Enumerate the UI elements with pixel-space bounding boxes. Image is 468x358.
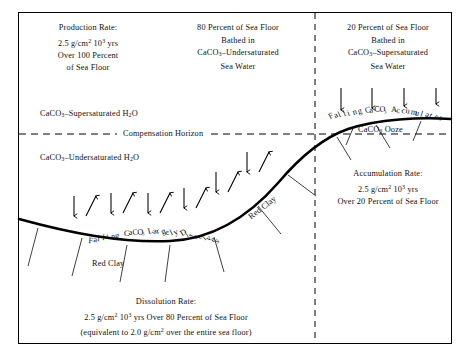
- curved-glyph: l: [102, 233, 105, 242]
- caco3-ooze-label: CaCO3 Ooze: [358, 124, 403, 138]
- accumulation-coverage: Over 20 Percent of Sea Floor: [337, 196, 438, 209]
- production-rate-value: 2.5 g/cm2 103 yrs: [58, 35, 118, 50]
- dissolution-rate-title: Dissolution Rate:: [80, 296, 251, 309]
- right-bathed-in: Bathed in: [347, 35, 429, 48]
- right-sea-floor-percent: 20 Percent of Sea Floor: [347, 22, 429, 35]
- compensation-horizon-label: Compensation Horizon: [117, 128, 209, 140]
- supersaturated-water-label: CaCO3–Supersaturated H2O: [40, 108, 138, 122]
- dissolution-rate-value: 2.5 g/cm2 103 yrs Over 80 Percent of Sea…: [80, 309, 251, 324]
- center-sea-floor-percent: 80 Percent of Sea Floor: [197, 22, 279, 35]
- dissolution-equivalent: (equivalent to 2.0 g/cm2 over the entire…: [80, 324, 251, 339]
- accumulation-rate-value: 2.5 g/cm2 103 yrs: [337, 181, 438, 196]
- right-supersaturated: CaCO3–Supersaturated: [347, 47, 429, 61]
- curved-glyph: c: [396, 106, 400, 115]
- red-clay-flat-label: Red Clay: [92, 258, 124, 270]
- accumulation-rate-block: Accumulation Rate: 2.5 g/cm2 103 yrs Ove…: [337, 168, 438, 208]
- right-sea-water: Sea Water: [347, 61, 429, 74]
- center-top-block: 80 Percent of Sea Floor Bathed in CaCO3–…: [197, 22, 279, 74]
- center-bathed-in: Bathed in: [197, 35, 279, 48]
- production-rate-block: Production Rate: 2.5 g/cm2 103 yrs Over …: [58, 22, 118, 75]
- right-top-block: 20 Percent of Sea Floor Bathed in CaCO3–…: [347, 22, 429, 74]
- center-sea-water: Sea Water: [197, 61, 279, 74]
- production-rate-title: Production Rate:: [58, 22, 118, 35]
- figure-canvas: Production Rate: 2.5 g/cm2 103 yrs Over …: [0, 0, 468, 358]
- center-undersaturated: CaCO3–Undersaturated: [197, 47, 279, 61]
- accumulation-rate-title: Accumulation Rate:: [337, 168, 438, 181]
- production-coverage-line2: of Sea Floor: [58, 62, 118, 75]
- dissolution-rate-block: Dissolution Rate: 2.5 g/cm2 103 yrs Over…: [80, 296, 251, 339]
- undersaturated-water-label: CaCO3–Undersaturated H2O: [40, 152, 139, 166]
- production-coverage-line1: Over 100 Percent: [58, 50, 118, 63]
